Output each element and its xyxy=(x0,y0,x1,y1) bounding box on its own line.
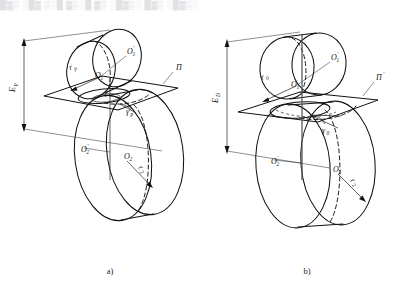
dimension-ED xyxy=(225,32,330,168)
label-O2prime-b-sub: 2 xyxy=(277,161,280,167)
label-plane-pi-prime-mark: ′ xyxy=(383,71,385,77)
label-Ep-sub: p xyxy=(12,83,18,87)
label-O1-group-a: O 1 xyxy=(95,71,104,81)
small-cylinder-b xyxy=(257,30,349,101)
label-plane-pi-a: П xyxy=(175,63,183,72)
figure-root: █▓▒ ░█▓ ▒░█ ▓▒░█ ▓▒ ░█▓▒░ █▓▒ ░█▓▒░ E p xyxy=(0,0,401,293)
dimension-ED-label: E D xyxy=(211,93,221,104)
label-r0-sub: 0 xyxy=(265,74,270,81)
panel-b-group: E D xyxy=(211,30,385,276)
label-gamma0-sub: 0 xyxy=(327,130,330,136)
caption-a: a) xyxy=(107,266,114,276)
label-O1prime-group-a: O 1 ′ xyxy=(100,45,136,77)
label-O2prime-sub: 2 xyxy=(87,149,90,155)
label-gamma0-group-b: γ 0 xyxy=(322,126,330,136)
label-plane-pi-prime: П xyxy=(375,73,383,82)
label-ED: E xyxy=(211,98,220,104)
panel-a-group: E p xyxy=(8,24,191,276)
caption-b: b) xyxy=(303,266,310,276)
label-O1-group-b: O 1 xyxy=(291,80,300,90)
label-O2-group-a: O 2 xyxy=(124,152,133,162)
dimension-Ep-label: E p xyxy=(8,83,18,93)
label-gamma0: γ xyxy=(322,126,326,135)
label-r0-group-b: r 0 xyxy=(259,71,270,83)
label-O2-b-sub: 2 xyxy=(339,169,342,175)
technical-diagram-canvas: E p xyxy=(0,0,401,293)
label-gammap-sub: p xyxy=(130,111,134,117)
label-O2-sub: 2 xyxy=(130,156,133,162)
small-cylinder-a xyxy=(61,24,148,104)
label-r2-group-a: r 2 xyxy=(136,163,148,175)
label-O1prime-b-sub: 1 xyxy=(337,57,340,63)
label-plane-pi-prime-group-b: П ′ xyxy=(375,71,385,82)
label-Ep: E xyxy=(8,87,17,93)
label-ED-sub: D xyxy=(215,93,221,98)
label-O2prime-group-a: O 2 ′ xyxy=(81,143,110,155)
label-O1-b-sub: 1 xyxy=(297,84,300,90)
label-rp-group-a: r p xyxy=(68,61,78,73)
label-r2-group-b: r 2 xyxy=(348,176,360,188)
label-O1-sub: 1 xyxy=(101,75,104,81)
label-O1prime-sub: 1 xyxy=(133,51,136,57)
